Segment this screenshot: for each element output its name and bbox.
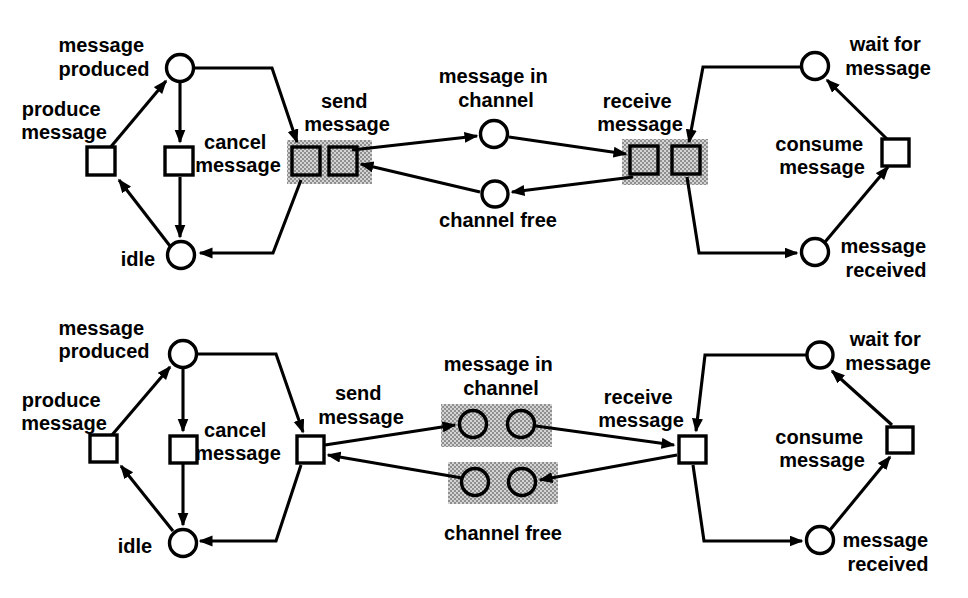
place-idle-top	[168, 242, 195, 269]
transition-consume-message-bottom	[887, 427, 913, 453]
petri-net-figure: message produced produce message cancel …	[0, 0, 968, 598]
place-message-produced-bottom	[170, 341, 197, 368]
arc-receive-to-free-bottom	[540, 455, 677, 480]
arc-consume-to-wait-top	[827, 80, 888, 140]
arc-send-to-idle-bottom	[200, 465, 301, 541]
transition-cancel-message-top	[165, 147, 193, 175]
label-message-received-bottom: message received	[842, 529, 933, 575]
arc-consume-to-wait-bottom	[832, 371, 892, 425]
label-send-message-top: send message	[304, 90, 390, 135]
label-wait-for-message-top: wait for message	[845, 33, 931, 79]
transition-produce-message-top	[87, 147, 115, 175]
channel-free-shaded-block-bottom	[448, 462, 558, 504]
transition-receive-message-bottom	[679, 436, 706, 463]
label-cancel-message-top: cancel message	[195, 131, 281, 176]
label-receive-message-bottom: receive message	[598, 386, 684, 431]
transition-send-message-bottom	[297, 436, 324, 463]
place-message-received-top	[802, 239, 829, 266]
label-message-produced-bottom: message produced	[58, 317, 149, 362]
label-send-message-bottom: send message	[318, 382, 404, 428]
place-message-received-bottom	[807, 527, 834, 554]
arc-send-to-channel-bottom	[325, 425, 455, 445]
label-idle-bottom: idle	[118, 535, 152, 557]
arc-send-to-idle-top	[200, 180, 301, 253]
arc-wait-to-receive-bottom	[696, 355, 806, 431]
label-channel-free-bottom: channel free	[444, 522, 562, 544]
place-wait-for-message-top	[802, 53, 829, 80]
place-channel-free-top	[482, 181, 508, 207]
arc-received-to-consume-top	[825, 167, 888, 242]
arc-free-to-send-top	[361, 164, 480, 192]
label-consume-message-bottom: consume message	[775, 426, 868, 471]
place-idle-bottom	[170, 530, 197, 557]
arc-produce-to-produced-bottom	[112, 367, 170, 435]
arc-channel-to-receive-top	[509, 137, 626, 154]
label-consume-message-top: consume message	[775, 133, 868, 178]
arc-receive-to-free-top	[512, 177, 633, 192]
label-wait-for-message-bottom: wait for message	[845, 328, 931, 374]
label-receive-message-top: receive message	[597, 90, 683, 135]
place-message-produced-top	[167, 55, 194, 82]
place-wait-for-message-bottom	[807, 342, 833, 368]
label-produce-message-top: produce message	[21, 98, 107, 143]
label-message-produced-top: message produced	[58, 34, 149, 80]
arc-produce-to-produced-top	[109, 81, 166, 149]
arc-wait-to-receive-top	[689, 67, 801, 142]
label-message-in-channel-bottom: message in channel	[444, 353, 559, 399]
label-produce-message-bottom: produce message	[21, 389, 107, 434]
label-message-in-channel-top: message in channel	[439, 65, 554, 111]
label-channel-free-top: channel free	[439, 209, 557, 231]
arc-receive-to-received-top	[687, 177, 797, 253]
label-cancel-message-bottom: cancel message	[195, 419, 281, 464]
arc-receive-to-received-bottom	[693, 465, 802, 541]
arc-idle-to-produce-bottom	[121, 466, 173, 531]
transition-produce-message-bottom	[90, 435, 117, 462]
transition-cancel-message-bottom	[170, 436, 197, 463]
bottom-net: message produced produce message cancel …	[21, 317, 933, 575]
top-net: message produced produce message cancel …	[21, 33, 931, 281]
transition-consume-message-top	[882, 139, 909, 166]
label-idle-top: idle	[121, 248, 155, 270]
arc-idle-to-produce-top	[119, 180, 170, 246]
place-message-in-channel-top	[481, 121, 508, 148]
arc-free-to-send-bottom	[328, 455, 462, 478]
label-message-received-top: message received	[840, 235, 931, 281]
petri-net-canvas: message produced produce message cancel …	[0, 0, 968, 598]
